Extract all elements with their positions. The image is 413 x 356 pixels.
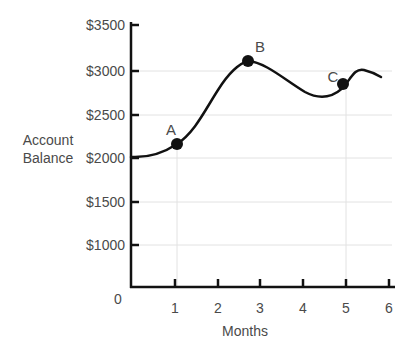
origin-label: 0 (114, 291, 122, 307)
x-tick-label: 3 (256, 300, 264, 316)
chart: $3500 $3000 $2500 $2000 $1500 $1000 0 1 … (0, 0, 413, 356)
point-c (337, 78, 349, 90)
data-points (171, 55, 349, 150)
y-tick-label: $2000 (86, 150, 125, 166)
gridlines (131, 71, 392, 287)
y-tick-label: $3000 (86, 63, 125, 79)
x-tick-label: 4 (299, 300, 307, 316)
point-label-a: A (166, 121, 176, 138)
y-tick-label: $1000 (86, 237, 125, 253)
x-axis-title: Months (222, 323, 268, 339)
point-label-c: C (328, 68, 339, 85)
x-tick-label: 2 (214, 300, 222, 316)
x-tick-label: 5 (342, 300, 350, 316)
y-tick-labels: $3500 $3000 $2500 $2000 $1500 $1000 0 (86, 17, 125, 307)
y-axis-title-line2: Balance (23, 150, 74, 166)
y-axis-title-line1: Account (23, 132, 74, 148)
y-tick-label: $3500 (86, 17, 125, 33)
x-tick-label: 6 (385, 300, 393, 316)
axes (130, 22, 395, 288)
balance-curve (131, 61, 381, 157)
point-b (242, 55, 254, 67)
point-a (171, 138, 183, 150)
y-tick-label: $1500 (86, 194, 125, 210)
y-tick-label: $2500 (86, 107, 125, 123)
x-tick-labels: 1 2 3 4 5 6 (171, 300, 393, 316)
point-label-b: B (255, 38, 265, 55)
x-tick-label: 1 (171, 300, 179, 316)
